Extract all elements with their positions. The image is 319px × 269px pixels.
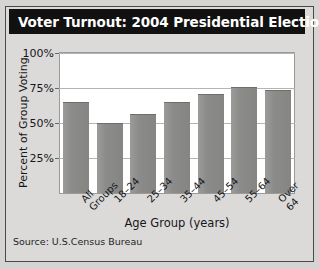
y-tick-label: 50% bbox=[30, 117, 54, 130]
chart-title: Voter Turnout: 2004 Presidential Electio… bbox=[18, 14, 319, 30]
bar bbox=[265, 90, 291, 193]
y-tick-label: 75% bbox=[30, 82, 54, 95]
y-tick-label: 100% bbox=[23, 47, 54, 60]
x-axis-title: Age Group (years) bbox=[59, 216, 295, 230]
bar bbox=[63, 102, 89, 193]
chart-title-banner: Voter Turnout: 2004 Presidential Electio… bbox=[9, 9, 305, 34]
bar bbox=[231, 87, 257, 193]
y-axis-title-text: Percent of Group Voting bbox=[17, 58, 30, 188]
y-tick-label: 25% bbox=[30, 152, 54, 165]
bar-series bbox=[60, 53, 294, 193]
plot-region: Percent of Group Voting 25%50%75%100% Al… bbox=[59, 52, 295, 194]
chart-figure: Voter Turnout: 2004 Presidential Electio… bbox=[0, 0, 319, 269]
source-note: Source: U.S.Census Bureau bbox=[13, 236, 142, 247]
